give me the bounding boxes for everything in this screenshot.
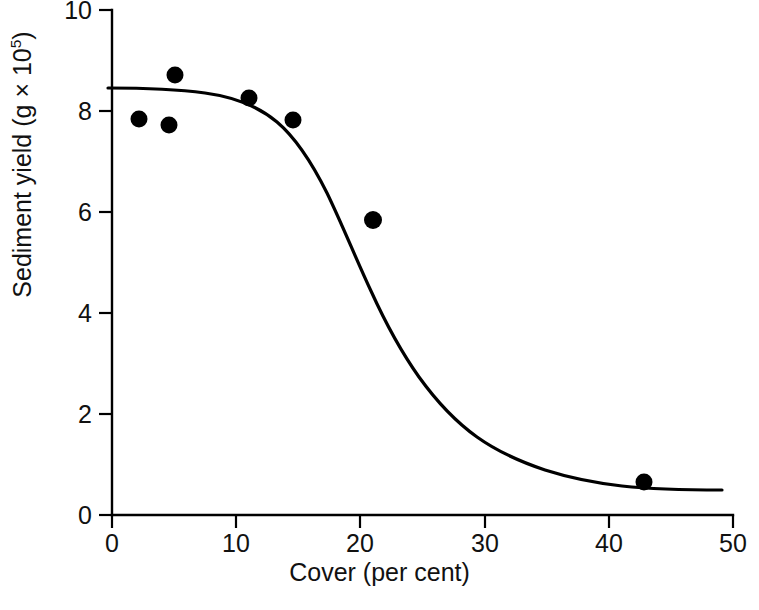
y-axis-title: Sediment yield (g × 105) <box>8 0 37 400</box>
fitted-curve <box>108 88 722 490</box>
x-tick-marks <box>112 515 733 528</box>
axis-group <box>112 10 733 515</box>
y-tick-label: 2 <box>78 402 92 427</box>
x-axis-title: Cover (per cent) <box>0 558 759 587</box>
x-tick-label: 20 <box>346 531 374 556</box>
y-axis-title-close: ) <box>8 31 36 39</box>
y-tick-label: 0 <box>78 503 92 528</box>
y-tick-marks <box>99 10 112 515</box>
x-tick-label: 50 <box>719 531 747 556</box>
y-axis-title-exponent: 5 <box>7 40 24 49</box>
x-tick-label: 0 <box>105 531 119 556</box>
y-tick-label: 4 <box>78 301 92 326</box>
data-point <box>364 211 382 229</box>
y-tick-label: 8 <box>78 99 92 124</box>
x-tick-label: 30 <box>471 531 499 556</box>
data-point <box>131 111 148 128</box>
x-tick-label: 40 <box>595 531 623 556</box>
data-point <box>241 90 258 107</box>
y-axis-title-base: Sediment yield (g × 10 <box>8 48 36 297</box>
chart-plot-area <box>0 0 759 610</box>
x-tick-label: 10 <box>222 531 250 556</box>
data-points-group <box>131 67 653 491</box>
data-point <box>161 117 178 134</box>
y-tick-label: 10 <box>64 0 92 23</box>
y-tick-label: 6 <box>78 200 92 225</box>
data-point <box>285 112 302 129</box>
data-point <box>167 67 184 84</box>
data-point <box>636 474 653 491</box>
chart-figure: 10 8 6 4 2 0 0 10 20 30 40 50 Cover (per… <box>0 0 759 610</box>
